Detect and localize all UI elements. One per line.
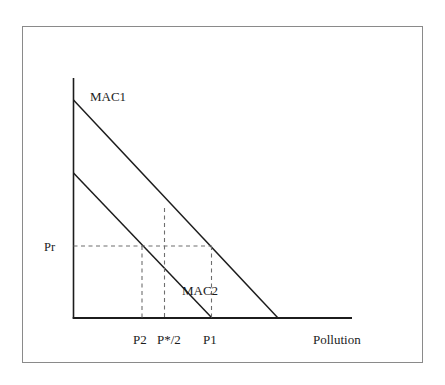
mac-curves-plot	[0, 0, 445, 385]
x-tick-label-pstar-half: P*/2	[157, 333, 181, 347]
mac2-curve-label: MAC2	[182, 284, 218, 298]
x-tick-label-p2: P2	[133, 333, 147, 347]
mac1-curve-label: MAC1	[90, 90, 126, 104]
mac1-curve	[74, 100, 279, 318]
price-axis-label: Pr	[44, 240, 55, 254]
x-axis-title: Pollution	[313, 333, 361, 347]
figure-canvas: MAC1 MAC2 Pr P2 P*/2 P1 Pollution	[0, 0, 445, 385]
x-tick-label-p1: P1	[203, 333, 217, 347]
